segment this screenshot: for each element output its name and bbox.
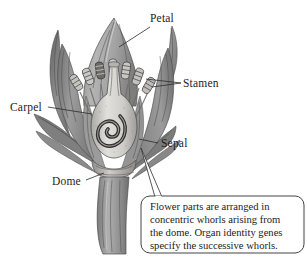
label-stamen: Stamen xyxy=(183,77,219,89)
flower-illustration-svg: Petal Stamen Carpel Sepal Dome Flower pa… xyxy=(0,0,307,260)
flower-diagram-figure: Petal Stamen Carpel Sepal Dome Flower pa… xyxy=(0,0,307,260)
callout-box: Flower parts are arranged in concentric … xyxy=(141,148,304,253)
label-dome: Dome xyxy=(52,175,81,187)
label-petal: Petal xyxy=(150,12,174,24)
callout-line-1: Flower parts are arranged in xyxy=(150,201,270,212)
callout-line-3: the dome. Organ identity genes xyxy=(150,227,283,238)
callout-line-2: concentric whorls arising from xyxy=(150,214,281,225)
label-sepal: Sepal xyxy=(161,137,188,150)
callout-line-4: specify the successive whorls. xyxy=(150,240,278,251)
label-carpel: Carpel xyxy=(10,101,42,114)
stem xyxy=(97,177,129,254)
